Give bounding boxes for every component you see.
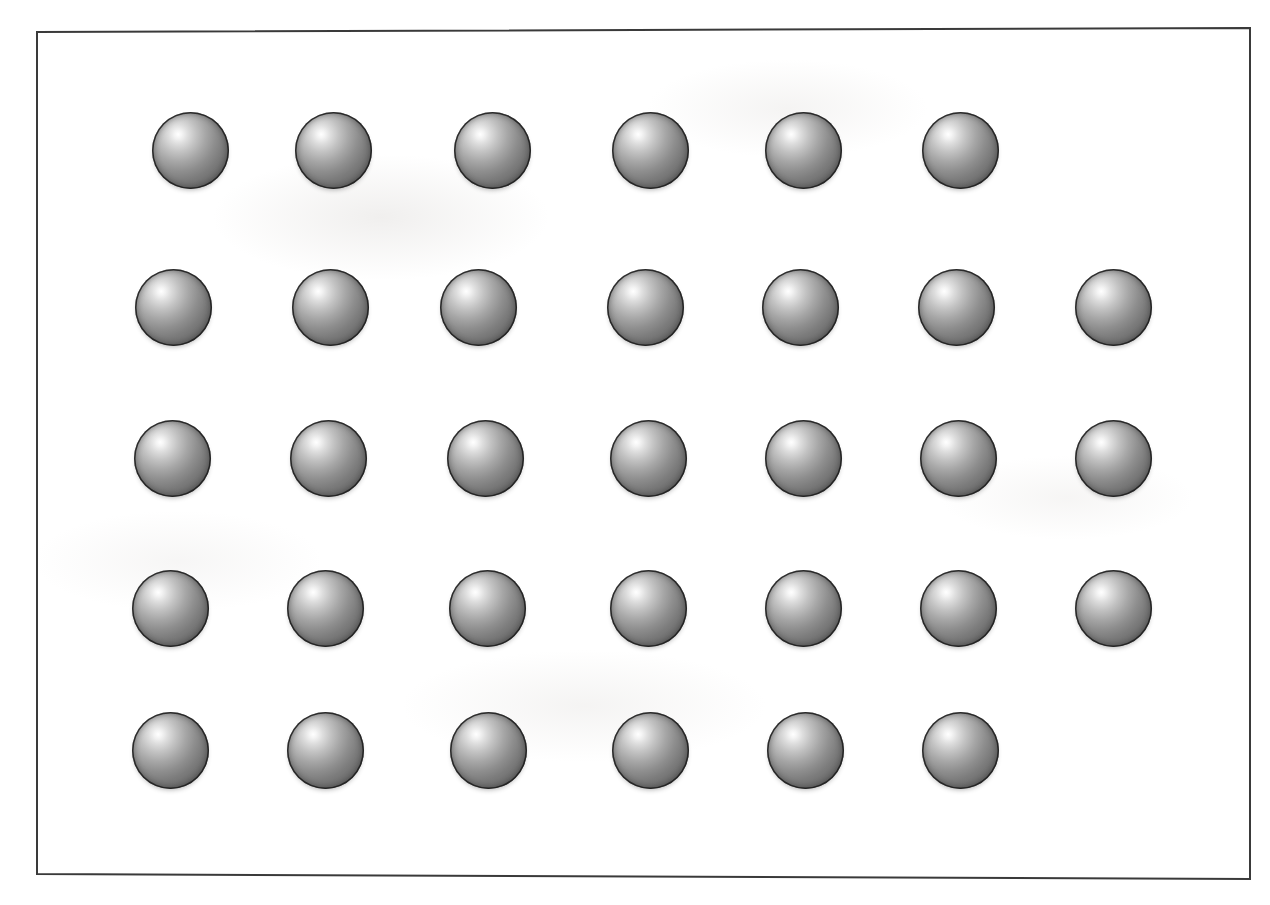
sphere-r3-c7 <box>1075 420 1152 497</box>
sphere-r2-c1 <box>135 269 212 346</box>
sphere-r1-c4 <box>612 112 689 189</box>
sphere-r1-c6 <box>922 112 999 189</box>
sphere-r5-c1 <box>132 712 209 789</box>
sphere-r4-c1 <box>132 570 209 647</box>
sphere-r3-c6 <box>920 420 997 497</box>
sphere-r2-c2 <box>292 269 369 346</box>
sphere-r2-c6 <box>918 269 995 346</box>
sphere-r4-c6 <box>920 570 997 647</box>
sphere-r5-c6 <box>922 712 999 789</box>
sphere-r1-c1 <box>152 112 229 189</box>
sphere-r5-c5 <box>767 712 844 789</box>
sphere-r4-c3 <box>449 570 526 647</box>
sphere-r4-c2 <box>287 570 364 647</box>
sphere-r3-c4 <box>610 420 687 497</box>
sphere-r1-c2 <box>295 112 372 189</box>
sphere-r1-c5 <box>765 112 842 189</box>
sphere-r3-c2 <box>290 420 367 497</box>
sphere-r3-c5 <box>765 420 842 497</box>
sphere-r4-c5 <box>765 570 842 647</box>
sphere-r1-c3 <box>454 112 531 189</box>
figure-page <box>0 0 1270 905</box>
sphere-r2-c7 <box>1075 269 1152 346</box>
sphere-r2-c3 <box>440 269 517 346</box>
sphere-r3-c3 <box>447 420 524 497</box>
sphere-grid <box>0 0 1270 905</box>
sphere-r5-c2 <box>287 712 364 789</box>
sphere-r5-c3 <box>450 712 527 789</box>
sphere-r4-c4 <box>610 570 687 647</box>
sphere-r4-c7 <box>1075 570 1152 647</box>
sphere-r5-c4 <box>612 712 689 789</box>
sphere-r2-c5 <box>762 269 839 346</box>
sphere-r3-c1 <box>134 420 211 497</box>
sphere-r2-c4 <box>607 269 684 346</box>
